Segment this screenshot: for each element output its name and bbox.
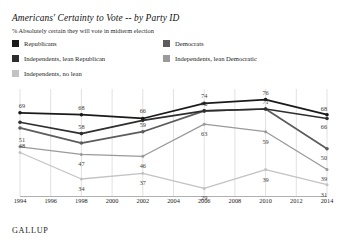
legend-label-independents-no-lean: Independents, no lean xyxy=(24,70,82,77)
data-point xyxy=(80,113,84,117)
legend-label-democrats: Democrats xyxy=(175,40,204,47)
point-value-label: 71 xyxy=(262,98,268,105)
data-point xyxy=(325,113,329,117)
point-value-label: 34 xyxy=(78,184,84,191)
gallup-brand: GALLUP xyxy=(12,226,49,235)
legend-label-independents-lean-republican: Independents, lean Republican xyxy=(24,55,105,62)
x-tick-1998: 1998 xyxy=(66,197,96,204)
point-value-label: 76 xyxy=(262,88,268,95)
legend-item-democrats[interactable]: Democrats xyxy=(163,40,204,47)
x-tick-2008: 2008 xyxy=(220,197,250,204)
data-point xyxy=(18,126,22,130)
x-tick-1994: 1994 xyxy=(5,197,35,204)
chart-svg xyxy=(0,88,333,198)
point-value-label: 69 xyxy=(19,101,25,108)
x-tick-2010: 2010 xyxy=(251,197,281,204)
point-value-label: 66 xyxy=(321,123,327,130)
legend-item-independents-lean-republican[interactable]: Independents, lean Republican xyxy=(12,55,105,62)
data-point xyxy=(264,130,267,133)
point-value-label: 59 xyxy=(262,137,268,144)
data-point xyxy=(18,111,22,115)
x-tick-1996: 1996 xyxy=(36,197,66,204)
data-point xyxy=(141,155,144,158)
data-point xyxy=(203,123,206,126)
data-point xyxy=(19,151,22,154)
data-point xyxy=(264,168,267,171)
point-value-label: 74 xyxy=(201,92,207,99)
chart-gridlines xyxy=(20,89,327,196)
point-value-label: 70 xyxy=(201,99,207,106)
legend-item-independents-no-lean[interactable]: Independents, no lean xyxy=(12,70,82,77)
point-value-label: 58 xyxy=(78,122,84,129)
x-tick-2002: 2002 xyxy=(128,197,158,204)
x-tick-2012: 2012 xyxy=(281,197,311,204)
chart-subtitle: % Absolutely certain they will vote in m… xyxy=(12,27,154,34)
legend-swatch-republicans xyxy=(12,40,19,47)
point-value-label: 50 xyxy=(321,153,327,160)
x-tick-2006: 2006 xyxy=(189,197,219,204)
x-tick-2004: 2004 xyxy=(159,197,189,204)
data-point xyxy=(141,130,145,134)
point-value-label: 39 xyxy=(262,175,268,182)
data-point xyxy=(80,141,84,145)
data-point xyxy=(80,132,84,136)
point-value-label: 63 xyxy=(201,130,207,137)
point-value-label: 46 xyxy=(140,162,146,169)
data-point xyxy=(80,177,83,180)
legend-swatch-ind-no-lean xyxy=(12,70,19,77)
legend-item-independents-lean-democratic[interactable]: Independents, lean Democratic xyxy=(163,55,257,62)
point-value-label: 68 xyxy=(321,104,327,111)
point-value-label: 68 xyxy=(78,103,84,110)
point-value-label: 59 xyxy=(140,120,146,127)
data-point xyxy=(325,117,329,121)
legend-item-republicans[interactable]: Republicans xyxy=(12,40,57,47)
x-tick-2000: 2000 xyxy=(97,197,127,204)
point-value-label: 48 xyxy=(19,141,25,148)
data-point xyxy=(80,153,83,156)
point-value-label: 39 xyxy=(321,174,327,181)
data-point xyxy=(141,172,144,175)
x-axis-ticks: 1994199619982000200220042006200820102012… xyxy=(0,197,333,215)
chart-title: Americans' Certainty to Vote -- by Party… xyxy=(12,13,179,23)
data-point xyxy=(203,187,206,190)
legend-swatch-ind-lean-dem xyxy=(163,55,170,62)
data-point xyxy=(326,168,329,171)
legend-label-independents-lean-democratic: Independents, lean Democratic xyxy=(175,55,257,62)
point-value-label: 47 xyxy=(78,160,84,167)
point-value-label: 66 xyxy=(140,107,146,114)
data-point xyxy=(325,147,329,151)
data-point xyxy=(18,120,22,124)
x-tick-2014: 2014 xyxy=(312,197,338,204)
data-point xyxy=(202,109,206,113)
data-point xyxy=(326,183,329,186)
data-point xyxy=(264,107,268,111)
legend-swatch-ind-lean-rep xyxy=(12,55,19,62)
point-value-label: 37 xyxy=(140,179,146,186)
legend-label-republicans: Republicans xyxy=(24,40,57,47)
chart-plot-area: 6968667476685871665970505147466359394834… xyxy=(0,88,333,198)
legend-swatch-democrats xyxy=(163,40,170,47)
